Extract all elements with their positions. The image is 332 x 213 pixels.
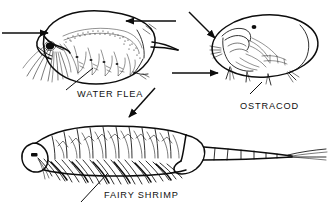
fairy-shrimp-eye [31,153,38,156]
fairy-shrimp-label: FAIRY SHRIMP [104,190,179,200]
water-flea-label: WATER FLEA [77,89,143,99]
ostracod-label: OSTRACOD [240,101,299,111]
figure-canvas: WATER FLEA OSTRACOD FAIRY SHRIMP [0,0,332,213]
ostracod-eye [252,25,257,29]
crustacean-figure: WATER FLEA OSTRACOD FAIRY SHRIMP [0,0,332,213]
